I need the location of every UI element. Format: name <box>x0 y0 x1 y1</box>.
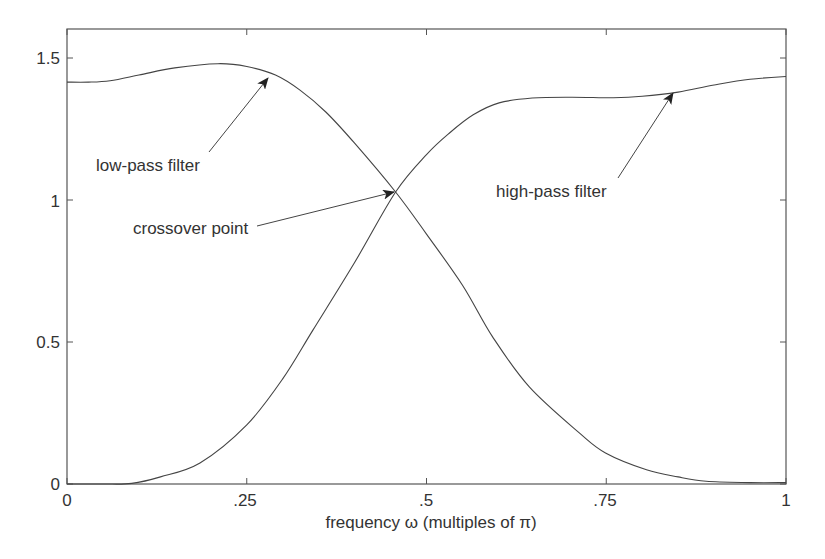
x-tick-label-1: 1 <box>781 491 790 510</box>
x-tick-label-0: 0 <box>62 491 71 510</box>
x-axis-title: frequency ω (multiples of π) <box>325 513 536 532</box>
low-pass-arrow-icon <box>209 78 268 152</box>
y-tick-label-1: 1 <box>51 192 60 211</box>
low-pass-curve <box>67 64 786 483</box>
plot-frame <box>67 29 786 484</box>
annotation-crossover-label: crossover point <box>133 219 249 238</box>
y-tick-label-0: 0 <box>51 475 60 494</box>
y-tick-label-0-5: 0.5 <box>36 333 60 352</box>
y-tick-label-1-5: 1.5 <box>36 49 60 68</box>
crossover-arrow-icon <box>257 192 394 226</box>
x-tick-label-0-5: .5 <box>419 491 433 510</box>
high-pass-curve <box>67 77 786 485</box>
high-pass-arrow-icon <box>618 93 673 178</box>
filter-response-chart: 0 0.5 1 1.5 0 .25 .5 .75 1 frequency ω (… <box>0 0 825 559</box>
annotation-high-pass-label: high-pass filter <box>496 182 607 201</box>
x-tick-label-0-25: .25 <box>233 491 257 510</box>
axis-ticks <box>67 29 786 484</box>
annotation-low-pass-label: low-pass filter <box>96 156 200 175</box>
x-tick-label-0-75: .75 <box>593 491 617 510</box>
